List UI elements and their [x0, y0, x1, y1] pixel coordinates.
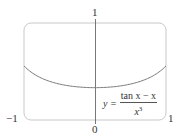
function-label: y = tan x − x x3 — [103, 90, 157, 117]
x-tick-label-1: 1 — [168, 113, 174, 124]
formula-lhs: y = — [103, 98, 117, 109]
x-tick-label-neg1: −1 — [6, 113, 18, 124]
x-tick-label-0: 0 — [92, 124, 98, 135]
formula-denominator: x3 — [134, 103, 142, 117]
y-tick-label-1: 1 — [92, 7, 98, 18]
function-plot — [0, 0, 181, 139]
formula-numerator: tan x − x — [120, 90, 157, 103]
function-curve — [24, 66, 166, 88]
formula-fraction: tan x − x x3 — [120, 90, 157, 117]
